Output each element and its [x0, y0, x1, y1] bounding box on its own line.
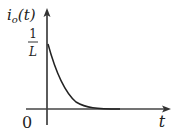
x-axis-label: t — [159, 112, 166, 131]
y-tick-numerator: 1 — [29, 27, 37, 41]
decay-curve — [48, 44, 120, 109]
y-axis-label: io(t) — [7, 6, 36, 25]
y-tick-denominator: L — [28, 45, 37, 59]
decay-graph: io(t) 1 L 0 t — [0, 0, 178, 137]
origin-label: 0 — [22, 113, 32, 132]
